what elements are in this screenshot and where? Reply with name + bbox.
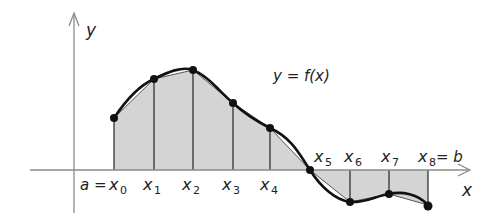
svg-text:x: x (181, 175, 192, 194)
trapezoid-rule-diagram: y x y = f(x) a = x 0 x 1 x 2 x 3 x 4 x 5… (0, 0, 499, 224)
svg-text:4: 4 (271, 184, 278, 197)
svg-text:x: x (417, 147, 428, 166)
y-axis-label: y (85, 20, 97, 40)
svg-text:2: 2 (193, 184, 200, 197)
label-a: a = (80, 176, 107, 194)
partition-label-x7: x 7 (380, 147, 399, 169)
partition-label-x3: x 3 (221, 175, 240, 197)
svg-text:x: x (142, 175, 153, 194)
svg-text:0: 0 (120, 184, 127, 197)
partition-label-x4: x 4 (259, 175, 278, 197)
svg-text:x: x (343, 147, 354, 166)
partition-label-x6: x 6 (343, 147, 362, 169)
svg-text:1: 1 (154, 184, 161, 197)
svg-text:7: 7 (392, 156, 399, 169)
svg-text:x: x (108, 175, 119, 194)
partition-label-x0: x 0 (108, 175, 127, 197)
svg-text:8: 8 (429, 156, 436, 169)
svg-text:5: 5 (325, 156, 332, 169)
partition-label-x2: x 2 (181, 175, 200, 197)
svg-text:x: x (313, 147, 324, 166)
svg-text:x: x (380, 147, 391, 166)
label-b: = b (436, 148, 463, 166)
partition-label-x1: x 1 (142, 175, 161, 197)
function-label: y = f(x) (272, 67, 330, 85)
svg-text:6: 6 (355, 156, 362, 169)
svg-text:x: x (259, 175, 270, 194)
x-axis-label: x (461, 180, 473, 200)
svg-text:3: 3 (233, 184, 240, 197)
partition-label-x5: x 5 (313, 147, 332, 169)
partition-label-x8: x 8 = b (417, 147, 463, 169)
svg-text:x: x (221, 175, 232, 194)
